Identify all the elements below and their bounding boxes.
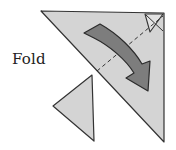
fold-diagram: Fold [0,0,176,150]
fold-label: Fold [12,50,46,68]
small-paper-triangle [53,75,94,141]
diagram-canvas [0,0,176,150]
